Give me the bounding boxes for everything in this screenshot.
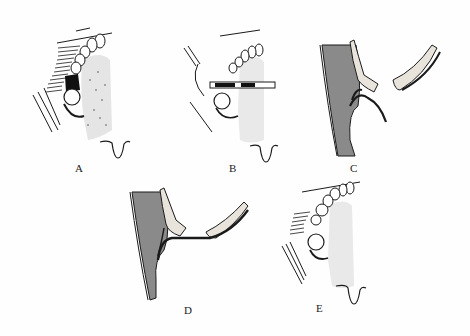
panel-d: D	[120, 180, 270, 336]
panel-a: A	[0, 0, 160, 180]
panel-b-illustration	[160, 0, 310, 180]
panel-label-d: D	[184, 304, 192, 316]
panel-label-e: E	[316, 302, 323, 314]
panel-label-a: A	[75, 162, 83, 174]
panel-c: C	[300, 0, 470, 180]
panel-e-illustration	[270, 170, 390, 336]
panel-label-b: B	[229, 162, 236, 174]
panel-d-illustration	[120, 180, 270, 336]
figure: A	[0, 0, 470, 336]
panel-a-illustration	[0, 0, 160, 180]
panel-e: E	[270, 170, 390, 336]
panel-c-illustration	[300, 0, 470, 180]
panel-b: B	[160, 0, 310, 180]
